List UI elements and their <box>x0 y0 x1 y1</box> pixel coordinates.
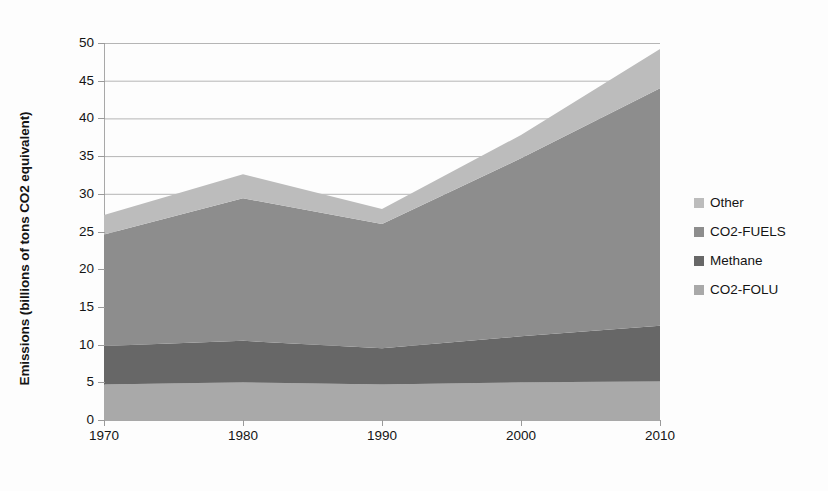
y-axis-tick-mark <box>98 345 105 346</box>
y-axis-tick-mark <box>98 118 105 119</box>
area-chart: Emissions (billions of tons CO2 equivale… <box>0 0 828 491</box>
x-axis-tick-label: 1990 <box>347 429 417 443</box>
y-axis-tick-mark <box>98 307 105 308</box>
legend-label: Other <box>710 196 744 210</box>
y-axis-tick-labels: 05101520253035404550 <box>54 0 94 491</box>
y-axis-title-text: Emissions (billions of tons CO2 equivale… <box>17 112 32 386</box>
y-axis-tick-label: 5 <box>60 375 94 389</box>
plot-area <box>104 43 660 420</box>
y-axis-tick-mark <box>98 81 105 82</box>
legend-item[interactable]: CO2-FUELS <box>694 217 824 246</box>
y-axis-tick-label: 15 <box>60 300 94 314</box>
y-axis-tick-mark <box>98 43 105 44</box>
y-axis-title: Emissions (billions of tons CO2 equivale… <box>0 0 44 491</box>
legend-swatch-icon <box>694 256 704 266</box>
stacked-area-svg <box>104 43 660 420</box>
x-axis-tick-label: 1980 <box>208 429 278 443</box>
x-axis-tick-label: 1970 <box>69 429 139 443</box>
x-axis-tick-mark <box>660 420 661 426</box>
y-axis-tick-mark <box>98 269 105 270</box>
y-axis-tick-label: 20 <box>60 262 94 276</box>
y-axis-tick-mark <box>98 382 105 383</box>
legend-label: CO2-FUELS <box>710 225 786 239</box>
x-axis-tick-mark <box>521 420 522 426</box>
legend-swatch-icon <box>694 198 704 208</box>
y-axis-tick-label: 40 <box>60 111 94 125</box>
y-axis-tick-mark <box>98 194 105 195</box>
legend-swatch-icon <box>694 227 704 237</box>
chart-legend: OtherCO2-FUELSMethaneCO2-FOLU <box>694 188 824 304</box>
x-axis-tick-mark <box>382 420 383 426</box>
x-axis-tick-label: 2000 <box>486 429 556 443</box>
y-axis-tick-label: 25 <box>60 225 94 239</box>
x-axis-tick-mark <box>104 420 105 426</box>
legend-label: CO2-FOLU <box>710 283 778 297</box>
legend-label: Methane <box>710 254 763 268</box>
y-axis-tick-mark <box>98 232 105 233</box>
y-axis-tick-label: 45 <box>60 74 94 88</box>
legend-item[interactable]: Other <box>694 188 824 217</box>
legend-item[interactable]: Methane <box>694 246 824 275</box>
y-axis-tick-label: 10 <box>60 338 94 352</box>
y-axis-tick-label: 30 <box>60 187 94 201</box>
legend-swatch-icon <box>694 285 704 295</box>
y-axis-tick-label: 35 <box>60 149 94 163</box>
y-axis-tick-label: 0 <box>60 413 94 427</box>
y-axis-tick-mark <box>98 156 105 157</box>
x-axis-tick-labels: 19701980199020002010 <box>0 429 828 453</box>
x-axis-tick-label: 2010 <box>625 429 695 443</box>
y-axis-tick-label: 50 <box>60 36 94 50</box>
area-series-co2-folu <box>104 382 660 420</box>
x-axis-tick-mark <box>243 420 244 426</box>
legend-item[interactable]: CO2-FOLU <box>694 275 824 304</box>
